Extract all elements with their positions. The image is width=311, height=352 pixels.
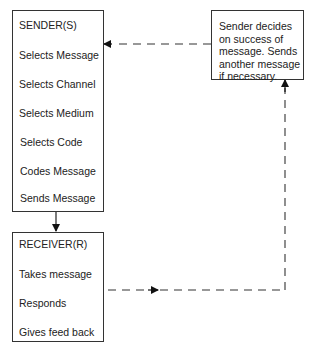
note-line: Sender decides: [219, 20, 300, 33]
receiver-step: Responds: [19, 297, 109, 309]
receiver-step: Takes message: [19, 268, 109, 280]
sender-box: SENDER(S) Selects Message Selects Channe…: [12, 10, 104, 212]
sender-step: Sends Message: [20, 192, 110, 204]
note-line: on success of: [219, 33, 300, 46]
sender-step: Selects Medium: [19, 107, 109, 119]
sender-step: Selects Message: [19, 49, 109, 61]
feedback-note: Sender decides on success of message. Se…: [219, 20, 300, 83]
note-line: message. Sends: [219, 45, 300, 58]
receiver-step: Gives feed back: [19, 326, 109, 338]
receiver-title: RECEIVER(R): [19, 238, 109, 250]
sender-step: Selects Code: [20, 136, 110, 148]
sender-step: Codes Message: [20, 165, 110, 177]
sender-title: SENDER(S): [19, 19, 109, 31]
note-line: another message: [219, 58, 300, 71]
receiver-box: RECEIVER(R) Takes message Responds Gives…: [12, 232, 104, 342]
feedback-note-box: Sender decides on success of message. Se…: [211, 10, 304, 80]
sender-step: Selects Channel: [19, 78, 109, 90]
note-line: if necessary.: [219, 70, 300, 83]
